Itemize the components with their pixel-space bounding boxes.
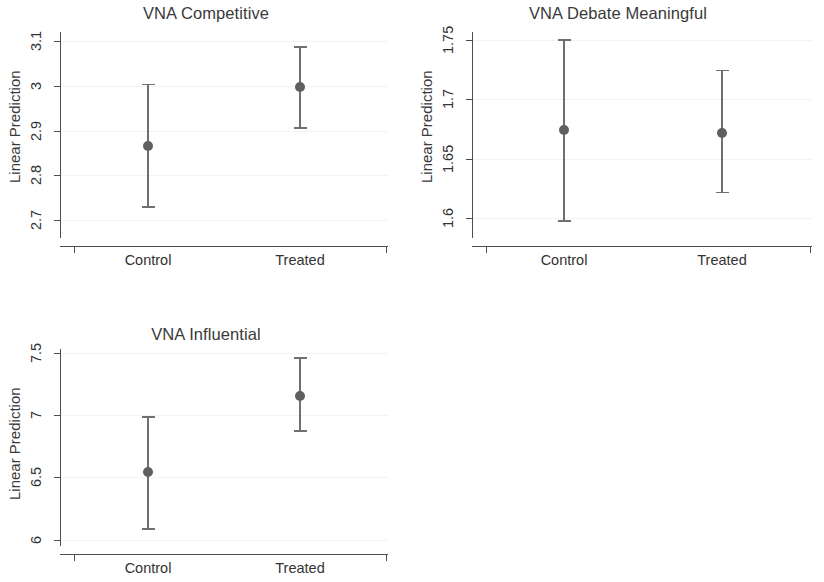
plot-area: 2.72.82.933.1ControlTreated — [0, 0, 412, 291]
y-axis-tick-label: 7 — [28, 391, 46, 439]
x-axis-category-label: Control — [98, 252, 198, 268]
x-axis-category-label: Treated — [250, 252, 350, 268]
y-axis-tick — [54, 540, 60, 541]
chart-panel-vna-debate-meaningful: VNA Debate Meaningful Linear Prediction … — [412, 0, 824, 291]
y-axis-tick — [466, 159, 472, 160]
y-axis-tick-label: 3 — [28, 62, 46, 110]
x-axis-tick — [386, 555, 387, 561]
gridline — [60, 220, 388, 221]
gridline — [472, 218, 812, 219]
x-axis-tick — [74, 247, 75, 253]
gridline — [60, 131, 388, 132]
x-axis-line — [60, 554, 388, 555]
y-axis-tick — [54, 220, 60, 221]
x-axis-category-label: Treated — [672, 252, 772, 268]
data-point-marker — [143, 141, 153, 151]
y-axis-tick-label: 6 — [28, 516, 46, 564]
y-axis-tick — [466, 218, 472, 219]
error-bar-cap — [716, 192, 729, 194]
x-axis-line — [60, 246, 388, 247]
data-point-marker — [295, 391, 305, 401]
y-axis-tick — [54, 86, 60, 87]
y-axis-tick-label: 1.7 — [440, 75, 458, 123]
gridline — [60, 175, 388, 176]
error-bar-cap — [294, 430, 307, 432]
y-axis-tick — [466, 40, 472, 41]
plot-area: 1.61.651.71.75ControlTreated — [412, 0, 824, 291]
gridline — [472, 40, 812, 41]
y-axis-tick-label: 1.6 — [440, 194, 458, 242]
gridline — [472, 159, 812, 160]
error-bar-cap — [716, 70, 729, 72]
gridline — [60, 540, 388, 541]
y-axis-line — [60, 349, 61, 546]
error-bar-cap — [294, 357, 307, 359]
error-bar-cap — [142, 84, 155, 86]
y-axis-tick-label: 2.8 — [28, 151, 46, 199]
y-axis-tick-label: 3.1 — [28, 17, 46, 65]
y-axis-tick — [54, 477, 60, 478]
y-axis-tick — [54, 353, 60, 354]
y-axis-tick — [54, 175, 60, 176]
x-axis-category-label: Treated — [250, 560, 350, 576]
error-bar-cap — [142, 416, 155, 418]
y-axis-tick-label: 1.75 — [440, 16, 458, 64]
data-point-marker — [717, 128, 727, 138]
y-axis-tick-label: 2.7 — [28, 196, 46, 244]
data-point-marker — [559, 125, 569, 135]
y-axis-tick — [54, 415, 60, 416]
y-axis-tick-label: 7.5 — [28, 329, 46, 377]
error-bar-cap — [294, 127, 307, 129]
error-bar-cap — [558, 39, 571, 41]
y-axis-tick-label: 2.9 — [28, 107, 46, 155]
y-axis-tick — [54, 131, 60, 132]
gridline — [60, 415, 388, 416]
y-axis-tick — [466, 99, 472, 100]
error-bar-cap — [142, 206, 155, 208]
y-axis-tick-label: 6.5 — [28, 453, 46, 501]
x-axis-category-label: Control — [98, 560, 198, 576]
error-bar-cap — [294, 46, 307, 48]
x-axis-tick — [486, 247, 487, 253]
data-point-marker — [143, 467, 153, 477]
chart-panel-vna-competitive: VNA Competitive Linear Prediction 2.72.8… — [0, 0, 412, 291]
x-axis-tick — [386, 247, 387, 253]
x-axis-tick — [74, 555, 75, 561]
figure-panel-grid: VNA Competitive Linear Prediction 2.72.8… — [0, 0, 824, 582]
x-axis-line — [472, 246, 812, 247]
gridline — [60, 41, 388, 42]
chart-panel-vna-influential: VNA Influential Linear Prediction 66.577… — [0, 291, 412, 582]
gridline — [60, 86, 388, 87]
error-bar-cap — [142, 528, 155, 530]
y-axis-tick-label: 1.65 — [440, 135, 458, 183]
data-point-marker — [295, 82, 305, 92]
x-axis-category-label: Control — [514, 252, 614, 268]
error-bar-cap — [558, 220, 571, 222]
gridline — [60, 477, 388, 478]
y-axis-tick — [54, 41, 60, 42]
y-axis-line — [60, 32, 61, 238]
x-axis-tick — [810, 247, 811, 253]
gridline — [472, 99, 812, 100]
y-axis-line — [472, 32, 473, 238]
plot-area: 66.577.5ControlTreated — [0, 291, 412, 582]
gridline — [60, 353, 388, 354]
